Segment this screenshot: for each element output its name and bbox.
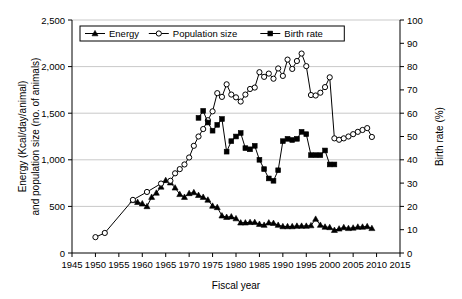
series-path (133, 180, 372, 230)
data-point (257, 70, 262, 75)
data-point (309, 153, 314, 158)
data-point (304, 64, 309, 69)
data-point (262, 167, 267, 172)
data-point (252, 143, 257, 148)
y-tick-label-right: 60 (407, 108, 418, 119)
x-tick-label: 2015 (389, 259, 410, 270)
data-point (210, 109, 215, 114)
data-point (144, 189, 149, 194)
y-tick-label-right: 70 (407, 84, 418, 95)
data-point (201, 126, 206, 131)
data-point (210, 128, 215, 133)
data-point (323, 148, 328, 153)
data-point (318, 90, 323, 95)
data-point (234, 134, 239, 139)
x-tick-label: 2005 (343, 259, 364, 270)
data-point (191, 143, 196, 148)
data-point (93, 235, 98, 240)
y-axis-title-line2: and population size (no. of animals) (30, 58, 41, 216)
data-point (322, 85, 327, 90)
y-tick-label-left: 2,500 (41, 15, 65, 26)
data-point (365, 126, 370, 131)
data-point (201, 108, 206, 113)
x-tick-label: 1975 (202, 259, 223, 270)
data-point (219, 213, 225, 218)
series-path (95, 54, 371, 238)
legend-marker-open-circle-icon (156, 31, 161, 36)
data-point (304, 132, 309, 137)
data-point (327, 162, 332, 167)
x-tick-label: 1950 (85, 259, 106, 270)
data-point (215, 91, 220, 96)
y-tick-label-right: 50 (407, 131, 418, 142)
data-point (130, 197, 135, 202)
legend-marker-filled-square-icon (268, 31, 273, 36)
legend-label: Energy (109, 28, 139, 39)
y-axis-title-line1: Energy (Kcal/day/animal) (17, 81, 28, 193)
x-tick-label: 1985 (249, 259, 270, 270)
data-point (182, 162, 187, 167)
x-tick-label: 2010 (366, 259, 387, 270)
y-tick-label-right: 90 (407, 38, 418, 49)
y-tick-label-right: 80 (407, 61, 418, 72)
y-tick-label-right: 20 (407, 201, 418, 212)
data-point (102, 230, 107, 235)
series-energy (130, 177, 375, 232)
data-point (229, 139, 234, 144)
data-point (276, 66, 281, 71)
x-axis-title: Fiscal year (212, 280, 261, 291)
data-point (280, 139, 285, 144)
data-point (177, 167, 182, 172)
data-point (219, 94, 224, 99)
series-population-size (93, 51, 375, 240)
y-tick-label-left: 0 (60, 248, 65, 259)
data-point (215, 122, 220, 127)
data-point (313, 216, 319, 221)
data-point (243, 146, 248, 151)
data-point (290, 138, 295, 143)
data-point (172, 171, 177, 176)
x-tick-label: 1960 (132, 259, 153, 270)
y-tick-label-left: 1,500 (41, 108, 65, 119)
data-point (243, 92, 248, 97)
x-tick-label: 1955 (108, 259, 129, 270)
data-point (364, 223, 370, 228)
line-chart: 05001,0001,5002,0002,5000102030405060708… (0, 0, 462, 299)
data-point (271, 76, 276, 81)
series-birth-rate (196, 108, 337, 183)
data-point (285, 57, 290, 62)
data-point (290, 66, 295, 71)
legend: EnergyPopulation sizeBirth rate (80, 26, 344, 41)
y-tick-label-right: 0 (407, 248, 412, 259)
data-point (313, 153, 318, 158)
data-point (276, 168, 281, 173)
legend-label: Birth rate (284, 28, 323, 39)
x-tick-label: 1965 (155, 259, 176, 270)
data-point (228, 214, 234, 219)
data-point (327, 75, 332, 80)
x-tick-label: 1995 (296, 259, 317, 270)
data-point (220, 117, 225, 122)
data-point (224, 149, 229, 154)
data-point (262, 74, 267, 79)
x-tick-label: 2000 (319, 259, 340, 270)
data-point (158, 181, 163, 186)
data-point (332, 162, 337, 167)
data-point (294, 58, 299, 63)
y-tick-label-right: 40 (407, 154, 418, 165)
data-point (285, 136, 290, 141)
x-tick-label: 1980 (225, 259, 246, 270)
data-point (168, 178, 173, 183)
x-tick-label: 1945 (61, 259, 82, 270)
y-tick-label-left: 1,000 (41, 154, 65, 165)
data-point (238, 99, 243, 104)
y-tick-label-right: 30 (407, 178, 418, 189)
data-point (224, 82, 229, 87)
y2-axis-title: Birth rate (%) (434, 107, 445, 166)
data-point (295, 136, 300, 141)
y-tick-label-right: 10 (407, 224, 418, 235)
y-tick-label-left: 2,000 (41, 61, 65, 72)
x-tick-label: 1990 (272, 259, 293, 270)
data-point (299, 51, 304, 56)
data-point (196, 115, 201, 120)
